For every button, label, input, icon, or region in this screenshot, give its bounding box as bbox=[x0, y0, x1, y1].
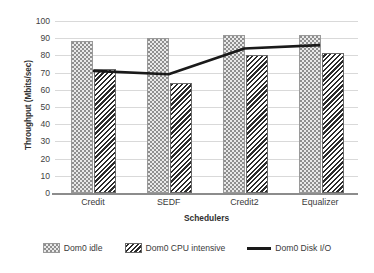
y-tick-label: 0 bbox=[24, 188, 50, 198]
y-tick-label: 60 bbox=[24, 85, 50, 95]
chart-legend: Dom0 idle Dom0 CPU intensive Dom0 Disk I… bbox=[0, 243, 374, 253]
throughput-bar-line-chart: Throughput (Mbits/sec) 10090807060504030… bbox=[0, 0, 374, 273]
x-axis-baseline bbox=[52, 193, 358, 195]
legend-label: Dom0 idle bbox=[64, 243, 103, 253]
legend-label: Dom0 CPU intensive bbox=[146, 243, 226, 253]
hatched-swatch-icon bbox=[125, 243, 142, 253]
y-tick-label: 70 bbox=[24, 68, 50, 78]
y-axis-tick-labels: 1009080706050403020100 bbox=[24, 0, 50, 273]
x-axis-title: Schedulers bbox=[55, 213, 358, 223]
plot-area bbox=[55, 21, 358, 193]
y-tick-label: 10 bbox=[24, 171, 50, 181]
y-tick-label: 20 bbox=[24, 154, 50, 164]
y-tick-label: 90 bbox=[24, 33, 50, 43]
x-tick-label-equalizer: Equalizer bbox=[302, 197, 339, 207]
x-tick-label-sedf: SEDF bbox=[157, 197, 180, 207]
dotted-swatch-icon bbox=[43, 243, 60, 253]
line-swatch-icon bbox=[247, 247, 271, 250]
y-tick-label: 100 bbox=[24, 16, 50, 26]
legend-item-dom0-cpu-intensive: Dom0 CPU intensive bbox=[125, 243, 226, 253]
y-tick-label: 30 bbox=[24, 136, 50, 146]
x-axis-tick-labels: CreditSEDFCredit2Equalizer bbox=[55, 197, 358, 213]
legend-label: Dom0 Disk I/O bbox=[275, 243, 331, 253]
y-tick-label: 80 bbox=[24, 50, 50, 60]
x-tick-label-credit: Credit bbox=[81, 197, 104, 207]
y-tick-label: 50 bbox=[24, 102, 50, 112]
line-series-overlay bbox=[55, 21, 358, 193]
line-dom0-disk-io bbox=[93, 45, 320, 74]
y-tick-label: 40 bbox=[24, 119, 50, 129]
legend-item-dom0-disk-io: Dom0 Disk I/O bbox=[247, 243, 331, 253]
x-tick-label-credit2: Credit2 bbox=[230, 197, 258, 207]
legend-item-dom0-idle: Dom0 idle bbox=[43, 243, 103, 253]
